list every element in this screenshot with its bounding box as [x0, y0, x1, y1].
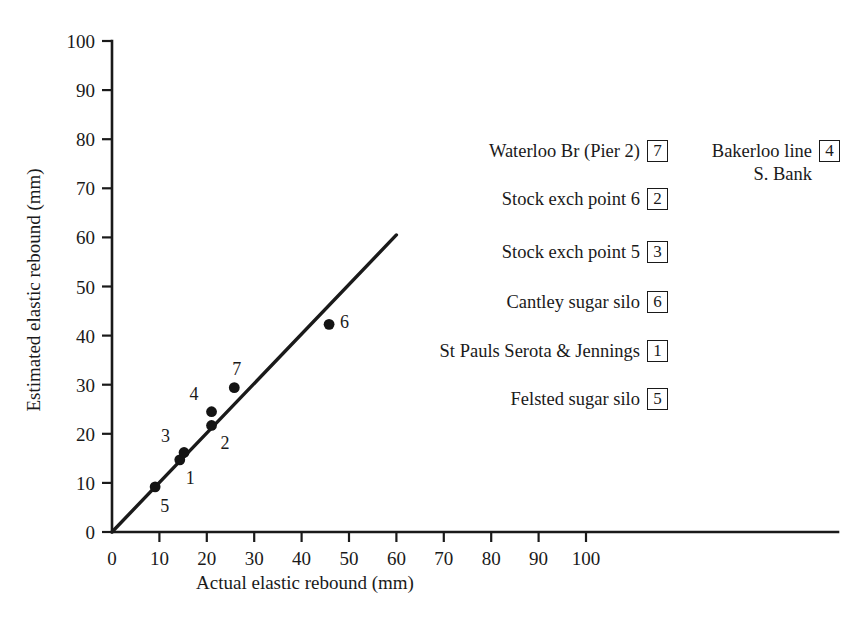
legend-item-label: Stock exch point 5	[502, 241, 640, 264]
data-point-marker	[150, 481, 161, 492]
x-axis-title: Actual elastic rebound (mm)	[196, 572, 414, 594]
legend-item-label: Stock exch point 6	[502, 188, 640, 211]
legend-item-key-box: 3	[647, 241, 668, 263]
x-tick-label: 70	[434, 548, 453, 569]
y-axis-title: Estimated elastic rebound (mm)	[23, 168, 45, 411]
data-point-marker	[229, 382, 240, 393]
data-point-label: 1	[186, 468, 195, 488]
legend-item: Bakerloo lineS. Bank4	[676, 140, 840, 186]
y-tick-label: 40	[76, 326, 95, 347]
data-point-marker	[324, 319, 335, 330]
data-point-label: 5	[160, 496, 169, 516]
x-tick-label: 0	[107, 548, 117, 569]
legend-item-label: St Pauls Serota & Jennings	[440, 340, 640, 363]
x-tick-label: 50	[340, 548, 359, 569]
y-tick-label: 80	[76, 129, 95, 150]
x-tick-label: 20	[197, 548, 216, 569]
y-tick-label: 100	[67, 31, 96, 52]
chart-figure: 0102030405060708090100 01020304050607080…	[0, 0, 854, 633]
legend-item-key-box: 2	[647, 188, 668, 210]
x-axis-ticks: 0102030405060708090100	[107, 532, 600, 569]
legend-right-column: Bakerloo lineS. Bank4	[676, 140, 840, 186]
legend-item: Cantley sugar silo6	[430, 291, 668, 314]
data-point-marker	[179, 447, 190, 458]
legend-item: St Pauls Serota & Jennings1	[430, 340, 668, 363]
data-point-label: 3	[161, 426, 170, 446]
legend-item: Stock exch point 53	[430, 241, 668, 264]
data-point-label: 2	[221, 433, 230, 453]
x-tick-label: 90	[529, 548, 548, 569]
y-tick-label: 70	[76, 178, 95, 199]
legend-item-key-box: 4	[819, 140, 840, 162]
legend-item-label: Bakerloo lineS. Bank	[712, 140, 812, 186]
legend-item-key-box: 6	[647, 291, 668, 313]
legend-left-column: Waterloo Br (Pier 2)7Stock exch point 62…	[430, 140, 668, 411]
x-tick-label: 60	[387, 548, 406, 569]
legend-item: Felsted sugar silo5	[430, 388, 668, 411]
legend-item: Waterloo Br (Pier 2)7	[430, 140, 668, 163]
scatter-plot: 0102030405060708090100 01020304050607080…	[0, 0, 854, 633]
legend-item-key-box: 5	[647, 388, 668, 410]
legend-item-key-box: 1	[647, 340, 668, 362]
x-tick-label: 100	[572, 548, 601, 569]
data-points: 1234567	[150, 312, 349, 516]
x-tick-label: 80	[482, 548, 501, 569]
data-point-marker	[206, 406, 217, 417]
y-tick-label: 10	[76, 473, 95, 494]
x-tick-label: 10	[150, 548, 169, 569]
y-tick-label: 20	[76, 424, 95, 445]
y-axis-ticks: 0102030405060708090100	[67, 31, 113, 543]
y-tick-label: 50	[76, 277, 95, 298]
legend-item: Stock exch point 62	[430, 188, 668, 211]
y-tick-label: 0	[86, 522, 96, 543]
y-tick-label: 30	[76, 375, 95, 396]
data-point-label: 4	[190, 384, 199, 404]
y-tick-label: 90	[76, 80, 95, 101]
legend-item-label: Cantley sugar silo	[506, 291, 640, 314]
data-point-marker	[206, 420, 217, 431]
x-tick-label: 30	[245, 548, 264, 569]
data-point-label: 6	[340, 312, 349, 332]
legend-item-key-box: 7	[647, 140, 668, 162]
y-tick-label: 60	[76, 227, 95, 248]
data-point-label: 7	[232, 359, 241, 379]
x-tick-label: 40	[292, 548, 311, 569]
legend-item-label: Felsted sugar silo	[511, 388, 641, 411]
legend-item-label: Waterloo Br (Pier 2)	[489, 140, 640, 163]
